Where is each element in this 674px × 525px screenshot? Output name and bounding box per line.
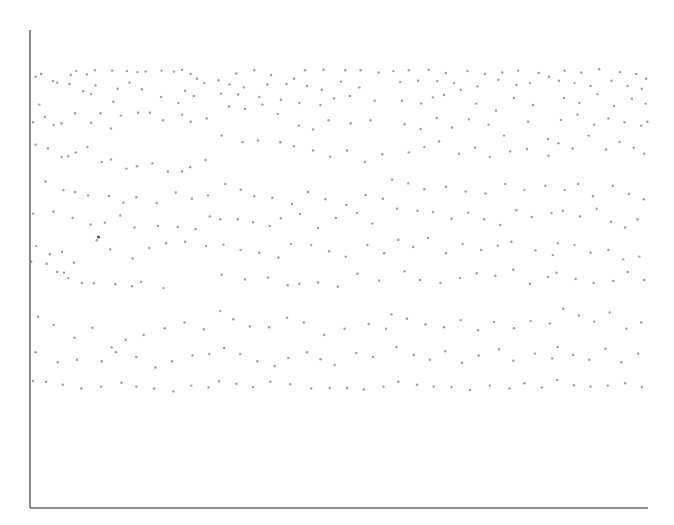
data-point <box>252 386 254 388</box>
data-point <box>637 352 639 354</box>
data-point <box>46 263 48 265</box>
data-point <box>44 116 46 118</box>
data-point <box>643 198 645 200</box>
data-point <box>364 194 366 196</box>
data-point <box>558 80 560 82</box>
data-point <box>190 121 192 123</box>
data-point <box>390 313 392 315</box>
data-point <box>203 82 205 84</box>
data-point <box>329 156 331 158</box>
data-point <box>181 170 183 172</box>
data-point <box>112 101 114 103</box>
data-point <box>465 190 467 192</box>
data-point <box>312 128 314 130</box>
data-point <box>575 278 577 280</box>
data-point <box>480 249 482 251</box>
data-point <box>126 70 128 72</box>
data-point <box>510 241 512 243</box>
data-point <box>372 356 374 358</box>
data-point <box>626 271 628 273</box>
data-point <box>61 251 63 253</box>
data-point <box>125 167 127 169</box>
data-point <box>190 384 192 386</box>
data-point <box>266 83 268 85</box>
data-point <box>293 145 295 147</box>
data-point <box>408 151 410 153</box>
data-point <box>49 253 51 255</box>
data-point <box>191 354 193 356</box>
data-point <box>252 221 254 223</box>
data-point <box>573 82 575 84</box>
data-point <box>137 112 139 114</box>
data-point <box>136 71 138 73</box>
data-point <box>220 134 222 136</box>
data-point <box>67 155 69 157</box>
data-point <box>588 359 590 361</box>
data-point <box>494 275 496 277</box>
data-point <box>232 318 234 320</box>
data-point <box>563 189 565 191</box>
data-point <box>277 256 279 258</box>
data-point <box>291 203 293 205</box>
data-point <box>310 244 312 246</box>
data-point <box>240 189 242 191</box>
data-point <box>32 212 34 214</box>
data-point <box>397 381 399 383</box>
data-point <box>239 353 241 355</box>
data-point <box>527 121 529 123</box>
data-point <box>93 282 95 284</box>
data-point <box>110 158 112 160</box>
data-point <box>515 209 517 211</box>
data-point <box>153 387 155 389</box>
data-point <box>513 97 515 99</box>
data-point <box>563 69 565 71</box>
data-point <box>203 328 205 330</box>
data-point <box>286 317 288 319</box>
data-point <box>34 144 36 146</box>
data-point <box>253 195 255 197</box>
data-point <box>641 88 643 90</box>
data-point <box>395 346 397 348</box>
data-point <box>487 123 489 125</box>
data-point <box>427 237 429 239</box>
data-point <box>52 80 54 82</box>
data-point <box>445 186 447 188</box>
data-point <box>497 244 499 246</box>
data-point <box>399 81 401 83</box>
data-point <box>366 244 368 246</box>
data-point <box>467 211 469 213</box>
data-point <box>167 170 169 172</box>
data-point <box>592 282 594 284</box>
data-point <box>45 381 47 383</box>
data-point <box>44 180 46 182</box>
data-point <box>90 93 92 95</box>
data-point <box>91 327 93 329</box>
data-point <box>274 365 276 367</box>
data-point <box>165 242 167 244</box>
data-point <box>133 226 135 228</box>
data-point <box>141 88 143 90</box>
data-point <box>235 72 237 74</box>
data-point <box>228 105 230 107</box>
data-point <box>175 191 177 193</box>
data-point <box>610 80 612 82</box>
data-point <box>478 354 480 356</box>
data-point <box>355 352 357 354</box>
data-point <box>312 149 314 151</box>
data-point <box>636 218 638 220</box>
data-point <box>86 73 88 75</box>
data-point <box>89 223 91 225</box>
data-point <box>508 387 510 389</box>
data-point <box>643 279 645 281</box>
data-point <box>218 380 220 382</box>
data-point <box>382 385 384 387</box>
data-point <box>73 262 75 264</box>
data-point <box>287 357 289 359</box>
data-point <box>131 257 133 259</box>
data-point <box>149 112 151 114</box>
data-point <box>557 346 559 348</box>
data-point <box>190 73 192 75</box>
data-point <box>523 382 525 384</box>
data-point <box>173 70 175 72</box>
data-point <box>547 276 549 278</box>
